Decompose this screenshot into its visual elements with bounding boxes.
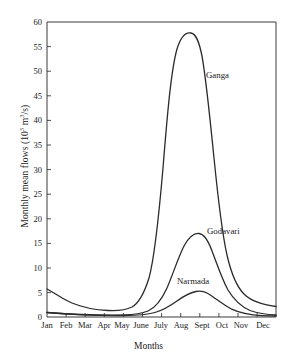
y-axis-ticks: [47, 47, 51, 293]
series-line-godavari: [47, 233, 276, 315]
series-line-ganga: [47, 33, 276, 311]
axis-frame: [47, 22, 276, 317]
series-line-narmada: [47, 291, 276, 316]
chart-figure: Monthly mean flows (103 m3/s) 60 55 50 4…: [0, 0, 297, 363]
plot-area: [0, 0, 297, 363]
